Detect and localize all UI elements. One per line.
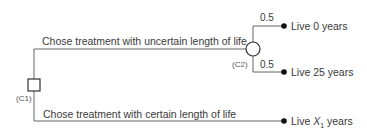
probability-top: 0.5 [260, 13, 274, 23]
outcome-suffix: years [324, 115, 353, 127]
c2-label: (C2) [232, 61, 248, 69]
terminal-dot [281, 69, 287, 75]
outcome-live-25: Live 25 years [291, 67, 353, 78]
c1-label: (C1) [16, 95, 32, 103]
outcome-live-0: Live 0 years [291, 21, 348, 32]
terminal-dot [281, 23, 287, 29]
terminal-dot [281, 118, 287, 124]
outcome-live-x1: Live X1 years [291, 116, 353, 129]
decision-node-square [28, 79, 40, 91]
outcome-prefix: Live [291, 115, 313, 127]
chance-node-circle [246, 42, 260, 56]
uncertain-branch-label: Chose treatment with uncertain length of… [42, 36, 247, 47]
probability-bottom: 0.5 [260, 60, 274, 70]
certain-branch-label: Chose treatment with certain length of l… [43, 109, 236, 120]
